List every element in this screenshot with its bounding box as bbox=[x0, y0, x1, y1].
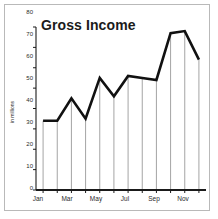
axes-group bbox=[33, 27, 206, 193]
chart-frame: Gross Income in millions 0 10 20 30 40 5… bbox=[4, 4, 210, 211]
data-series-line bbox=[43, 31, 199, 121]
drop-lines-group bbox=[43, 31, 199, 190]
chart-plot-area bbox=[5, 5, 211, 212]
